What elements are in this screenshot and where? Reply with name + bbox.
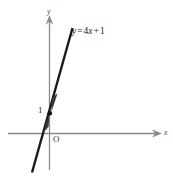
y-axis-label: y xyxy=(47,8,51,16)
equation-annotation: y=4x+1 xyxy=(72,27,105,37)
graph-figure: x y O 1 y=4x+1 xyxy=(0,0,173,178)
origin-label: O xyxy=(53,135,60,144)
equation-equals: = xyxy=(76,26,83,36)
x-axis-label: x xyxy=(164,129,168,137)
y-intercept-label: 1 xyxy=(38,106,43,115)
equation-variable: x xyxy=(88,26,92,36)
y-intercept-point xyxy=(48,111,53,116)
equation-plus: + xyxy=(93,26,100,36)
equation-intercept: 1 xyxy=(100,26,105,36)
